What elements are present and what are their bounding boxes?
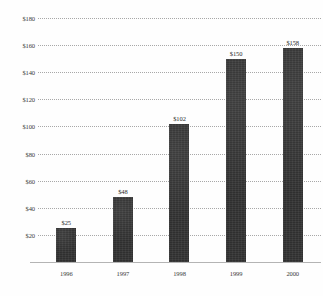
bar [56,228,76,262]
bar [169,124,189,262]
x-axis-tick-label: 1997 [117,270,130,277]
bar [113,197,133,262]
y-axis-tick-label: $160 [22,42,35,49]
y-axis-tick-label: $20 [26,231,35,238]
y-axis-tick-label: $180 [22,15,35,22]
bar-slot: $1582000 [264,18,321,262]
y-axis-tick-label: $60 [26,177,35,184]
y-axis-tick-label: $40 [26,204,35,211]
y-axis-tick-label: $80 [26,150,35,157]
x-axis-tick-label: 1998 [173,270,186,277]
bar-slot: $481997 [95,18,152,262]
plot-area: $20$40$60$80$100$120$140$160$180 $251996… [38,18,321,262]
bar [283,48,303,262]
x-axis-tick-label: 1996 [60,270,73,277]
bar-value-label: $158 [286,39,299,46]
x-axis-tick-label: 2000 [286,270,299,277]
bar-slot: $251996 [38,18,95,262]
bar [226,59,246,262]
x-axis-line [30,262,321,263]
y-axis-tick-label: $100 [22,123,35,130]
bar-value-label: $48 [118,188,127,195]
bar-value-label: $102 [173,115,186,122]
bar-value-label: $150 [230,50,243,57]
cropped-title-artifact [40,0,160,7]
y-axis-tick-label: $140 [22,69,35,76]
y-axis-tick-label: $120 [22,96,35,103]
bar-value-label: $25 [62,219,71,226]
bar-slot: $1501999 [208,18,265,262]
bar-slot: $1021998 [151,18,208,262]
chart-figure: $20$40$60$80$100$120$140$160$180 $251996… [0,0,323,296]
x-axis-tick-label: 1999 [230,270,243,277]
